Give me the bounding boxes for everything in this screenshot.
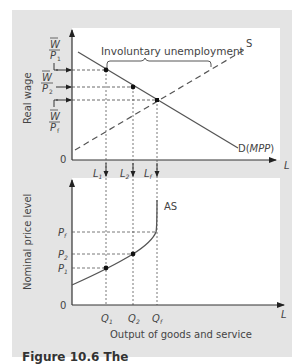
output-axis-title: Output of goods and service [110,329,252,340]
bottom-origin-label: 0 [60,300,66,311]
svg-text:P: P [50,122,57,133]
y-tick-pf: Pf [58,227,67,239]
x-tick-l1: L1 [93,163,106,180]
involuntary-unemployment-label: Involuntary unemployment [101,45,244,57]
top-origin-label: 0 [60,154,66,165]
point-equilibrium [155,98,159,102]
svg-text:2: 2 [49,88,53,95]
supply-label: S [246,38,252,49]
demand-label: D(MPP) [238,143,274,154]
svg-text:W: W [50,111,61,122]
svg-text:P: P [42,83,49,94]
svg-text:Lf: Lf [144,168,153,180]
y-tick-w-pf: W P f [49,110,61,134]
as-label: AS [164,201,177,212]
x-tick-l2: L2 [120,163,133,180]
svg-text:f: f [57,127,60,134]
real-wage-axis-title: Real wage [22,72,33,124]
x-tick-q1: Q1 [101,313,113,325]
top-x-axis-label: L [284,160,290,171]
svg-text:L1: L1 [93,168,102,180]
svg-text:W: W [50,39,61,50]
x-tick-qf: Qf [152,313,163,325]
figure-caption: Figure 10.6 The [22,350,128,364]
point-l2 [131,85,136,90]
svg-text:W: W [42,72,53,83]
y-tick-w-p1: W P 1 [49,38,61,62]
point-q2 [131,252,136,257]
point-l1 [104,68,109,73]
y-tick-w-p2: W P 2 [41,71,53,95]
bottom-x-axis-label: L [281,309,287,320]
bottom-plot-area [72,178,280,305]
price-level-axis-title: Nominal price level [22,194,33,290]
x-tick-lf: Lf [144,163,157,180]
svg-text:1: 1 [57,55,61,62]
point-q1 [104,266,109,271]
svg-text:L2: L2 [120,168,130,180]
y-tick-p2: P2 [58,249,68,261]
y-tick-p1: P1 [58,263,68,275]
x-tick-q2: Q2 [128,313,140,325]
svg-text:P: P [50,50,57,61]
